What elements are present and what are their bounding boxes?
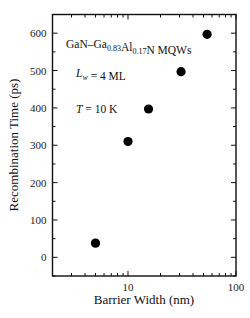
- data-point: [91, 239, 100, 248]
- data-point: [202, 30, 211, 39]
- data-point: [144, 104, 153, 113]
- annotation-well-width: Lw = 4 ML: [75, 67, 126, 82]
- y-tick-label: 600: [30, 27, 47, 39]
- x-tick-label: 100: [228, 281, 245, 293]
- scatter-chart: 0100200300400500600 10100 GaN–Ga0.83Al0.…: [0, 0, 250, 318]
- x-axis-label: Barrier Width (nm): [94, 292, 194, 307]
- y-tick-label: 500: [30, 65, 47, 77]
- data-point: [123, 137, 132, 146]
- y-tick-label: 100: [30, 214, 47, 226]
- y-tick-labels: 0100200300400500600: [30, 27, 47, 263]
- y-axis-label: Recombination Time (ps): [6, 79, 21, 212]
- y-tick-label: 0: [41, 251, 47, 263]
- y-tick-label: 300: [30, 139, 47, 151]
- data-points: [91, 30, 212, 248]
- data-point: [176, 67, 185, 76]
- y-tick-label: 200: [30, 177, 47, 189]
- annotation-material: GaN–Ga0.83Al0.17N MQWs: [66, 38, 192, 56]
- y-tick-label: 400: [30, 102, 47, 114]
- annotation-temperature: T = 10 K: [76, 103, 118, 115]
